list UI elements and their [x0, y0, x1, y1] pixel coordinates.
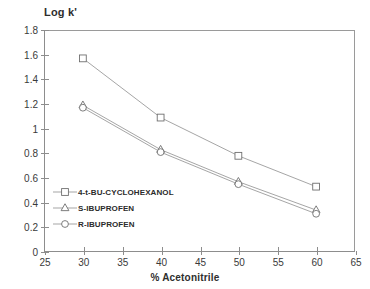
series-layer [0, 0, 370, 289]
data-point-square [62, 189, 69, 196]
legend-label: 4-t-BU-CYCLOHEXANOL [78, 188, 174, 197]
data-point-square [79, 55, 86, 62]
series-line [83, 58, 316, 186]
data-point-triangle [61, 204, 69, 211]
legend-item[interactable]: S-IBUPROFEN [52, 200, 202, 216]
data-point-square [235, 152, 242, 159]
chart-figure: Log k' 00.20.40.60.811.21.41.61.82530354… [0, 0, 370, 289]
legend-marker-square [52, 184, 78, 200]
legend-item[interactable]: 4-t-BU-CYCLOHEXANOL [52, 184, 202, 200]
legend-marker-triangle [52, 200, 78, 216]
data-point-circle [79, 104, 86, 111]
x-axis-title: % Acetonitrile [0, 272, 370, 283]
data-point-circle [157, 149, 164, 156]
data-point-square [313, 183, 320, 190]
legend-item[interactable]: R-IBUPROFEN [52, 216, 202, 232]
chart-legend: 4-t-BU-CYCLOHEXANOLS-IBUPROFENR-IBUPROFE… [52, 184, 202, 232]
data-point-circle [62, 221, 69, 228]
data-point-circle [313, 210, 320, 217]
series-0 [79, 55, 319, 190]
legend-marker-circle [52, 216, 78, 232]
legend-label: R-IBUPROFEN [78, 220, 135, 229]
data-point-square [157, 114, 164, 121]
legend-label: S-IBUPROFEN [78, 204, 134, 213]
data-point-circle [235, 181, 242, 188]
